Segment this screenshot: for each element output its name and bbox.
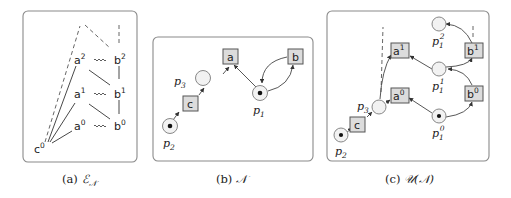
panel-petri-net: a b c p3 p1 p2 xyxy=(153,37,313,161)
transition-c-label: c xyxy=(187,98,193,111)
place-p1-1 xyxy=(432,62,446,76)
panel-unfolding: c a0 a1 b0 b1 p2 p3 p10 p11 p12 xyxy=(327,11,489,161)
transition-c-label: c xyxy=(354,119,360,132)
caption-c: (c) 𝒰(𝒩) xyxy=(385,172,434,186)
place-p1-0-label: p10 xyxy=(432,124,445,142)
place-p1-2-label: p12 xyxy=(432,32,445,50)
token-icon xyxy=(339,133,343,137)
token-icon xyxy=(168,124,173,129)
token-icon xyxy=(258,91,263,96)
place-p3 xyxy=(372,100,386,114)
panel-event-structure: a2 a1 a0 b2 b1 b0 c0 xyxy=(23,11,137,162)
token-icon xyxy=(437,114,441,118)
transition-a-label: a xyxy=(227,51,234,64)
transition-b-label: b xyxy=(292,51,299,64)
caption-a: (a) ℰ𝒩 xyxy=(62,172,99,188)
place-p3 xyxy=(196,71,211,86)
place-p1-2 xyxy=(432,17,446,31)
caption-b: (b) 𝒩 xyxy=(216,172,251,186)
place-p1-1-label: p11 xyxy=(432,77,445,95)
